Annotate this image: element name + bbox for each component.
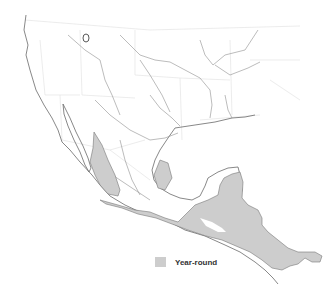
legend: Year-round xyxy=(155,257,217,267)
political-borders xyxy=(25,20,300,180)
lake-outline xyxy=(83,34,89,42)
legend-label-year-round: Year-round xyxy=(175,258,217,267)
range-map xyxy=(0,0,335,294)
year-round-range xyxy=(90,132,322,270)
year-round-swatch xyxy=(155,257,166,267)
